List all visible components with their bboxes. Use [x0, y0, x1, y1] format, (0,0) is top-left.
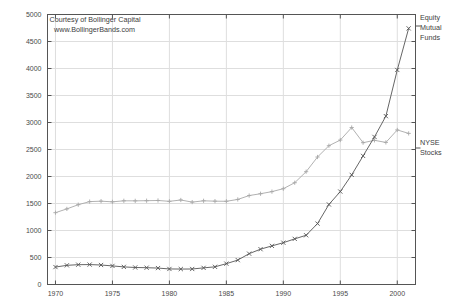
y-tick-label: 1500 — [26, 200, 42, 207]
x-tick-label: 1985 — [219, 290, 235, 297]
y-tick-label: 500 — [30, 254, 42, 261]
chart-canvas: 0500100015002000250030003500400045005000… — [0, 0, 472, 307]
equity-label-line-3: Funds — [420, 33, 440, 42]
x-tick-label: 1980 — [162, 290, 178, 297]
nyse-label-line-2: Stocks — [420, 148, 442, 157]
x-tick-label: 2000 — [389, 290, 405, 297]
y-tick-label: 5000 — [26, 11, 42, 18]
x-tick-label: 1970 — [48, 290, 64, 297]
y-tick-label: 4500 — [26, 38, 42, 45]
nyse-label-line-1: NYSE — [420, 138, 440, 147]
x-tick-label: 1995 — [333, 290, 349, 297]
y-tick-label: 3000 — [26, 119, 42, 126]
y-tick-label: 0 — [38, 281, 42, 288]
y-tick-label: 1000 — [26, 227, 42, 234]
credit-line-1: Courtesy of Bollinger Capital — [50, 15, 141, 24]
y-tick-label: 4000 — [26, 65, 42, 72]
y-tick-label: 2500 — [26, 146, 42, 153]
x-tick-label: 1975 — [105, 290, 121, 297]
x-tick-label: 1990 — [276, 290, 292, 297]
equity-label-line-2: Mutual — [420, 23, 442, 32]
stock-growth-chart: 0500100015002000250030003500400045005000… — [0, 0, 472, 307]
credit-annotation: Courtesy of Bollinger Capital www.Bollin… — [50, 15, 141, 34]
equity-label-line-1: Equity — [420, 13, 440, 22]
credit-line-2: www.BollingerBands.com — [53, 25, 135, 34]
y-tick-label: 2000 — [26, 173, 42, 180]
y-tick-label: 3500 — [26, 92, 42, 99]
